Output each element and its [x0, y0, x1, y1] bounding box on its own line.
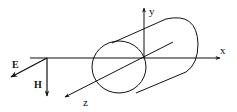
z-axis-label: z [83, 96, 88, 108]
h-field-label: H [34, 79, 42, 90]
x-axis-label: x [220, 44, 226, 56]
z-axis [65, 42, 173, 97]
cylinder-top-edge [112, 19, 166, 43]
y-axis-label: y [149, 5, 155, 17]
cylinder-bottom-edge [136, 72, 186, 93]
cylinder-front-face [92, 41, 146, 93]
cylinder-diagram: y x z E H [0, 0, 237, 112]
e-field-label: E [12, 59, 19, 70]
cylinder-back-end [166, 18, 198, 72]
